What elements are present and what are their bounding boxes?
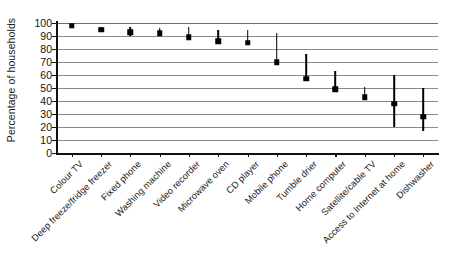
- data-point-marker: [128, 29, 134, 35]
- data-point-marker: [421, 114, 427, 120]
- gridline-40: [57, 101, 438, 102]
- y-tick-label-10: 10: [0, 135, 52, 146]
- y-tick-label-100: 100: [0, 18, 52, 29]
- y-tick-label-60: 60: [0, 70, 52, 81]
- x-tick-mark-10: [365, 153, 366, 157]
- y-axis-line: [56, 21, 58, 155]
- x-tick-mark-2: [130, 153, 131, 157]
- y-tick-label-90: 90: [0, 31, 52, 42]
- x-axis-label-5: Microwave oven: [176, 159, 231, 214]
- gridline-70: [57, 62, 438, 63]
- y-tick-label-40: 40: [0, 96, 52, 107]
- data-point-marker: [98, 27, 104, 33]
- x-tick-mark-0: [72, 153, 73, 157]
- data-point-marker: [303, 76, 309, 82]
- plot-area: [57, 23, 438, 153]
- error-bar: [423, 88, 425, 131]
- x-tick-mark-6: [248, 153, 249, 157]
- y-tick-label-20: 20: [0, 122, 52, 133]
- gridline-20: [57, 127, 438, 128]
- x-tick-mark-1: [101, 153, 102, 157]
- data-point-marker: [186, 35, 192, 41]
- y-tick-label-0: 0: [0, 148, 52, 159]
- x-tick-mark-8: [306, 153, 307, 157]
- data-point-marker: [69, 23, 75, 29]
- x-tick-mark-7: [277, 153, 278, 157]
- y-tick-label-70: 70: [0, 57, 52, 68]
- x-tick-mark-9: [335, 153, 336, 157]
- data-point-marker: [245, 40, 251, 46]
- data-point-marker: [333, 87, 339, 93]
- data-point-marker: [391, 101, 397, 107]
- y-tick-label-80: 80: [0, 44, 52, 55]
- gridline-100: [57, 23, 438, 24]
- error-bar: [276, 33, 278, 62]
- y-tick-label-30: 30: [0, 109, 52, 120]
- data-point-marker: [274, 59, 280, 65]
- gridline-50: [57, 88, 438, 89]
- gridline-30: [57, 114, 438, 115]
- gridline-10: [57, 140, 438, 141]
- x-tick-mark-4: [189, 153, 190, 157]
- x-tick-mark-5: [218, 153, 219, 157]
- data-point-marker: [362, 94, 368, 100]
- gridline-60: [57, 75, 438, 76]
- chart-container: Percentage of households 100908070605040…: [0, 0, 453, 268]
- data-point-marker: [157, 31, 163, 37]
- x-tick-mark-11: [394, 153, 395, 157]
- x-tick-mark-12: [423, 153, 424, 157]
- data-point-marker: [215, 38, 221, 44]
- x-tick-mark-3: [160, 153, 161, 157]
- gridline-80: [57, 49, 438, 50]
- y-tick-label-50: 50: [0, 83, 52, 94]
